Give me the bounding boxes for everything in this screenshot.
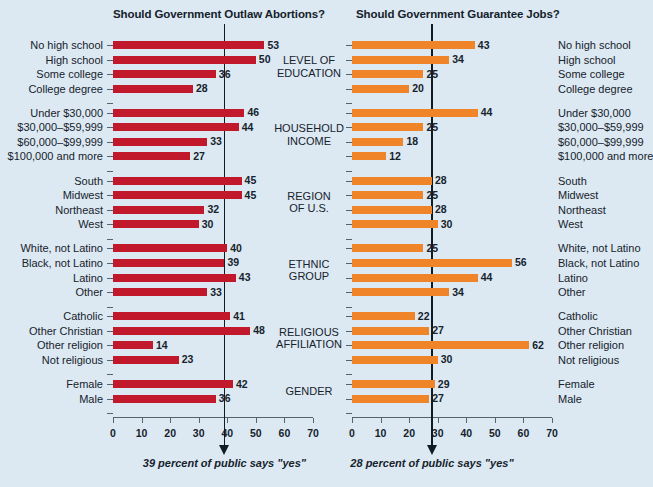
right-mean-arrow-stem <box>431 418 433 445</box>
bar-value-label: 43 <box>478 41 490 49</box>
bar <box>352 138 403 146</box>
x-axis-tick-label: 50 <box>489 427 501 439</box>
bar-value-label: 27 <box>193 152 205 160</box>
category-label: $100,000 and more <box>558 151 653 161</box>
bar <box>113 259 224 267</box>
category-label: College degree <box>558 84 633 94</box>
bar-value-label: 44 <box>242 123 254 131</box>
category-label: South <box>74 176 103 186</box>
group-name: LEVEL OFEDUCATION <box>270 54 348 79</box>
category-label: Not religious <box>558 355 619 365</box>
category-label: Some college <box>36 69 103 79</box>
group-name-line: AFFILIATION <box>270 338 348 351</box>
category-tick <box>346 239 352 240</box>
bar <box>113 288 207 296</box>
bar-value-label: 25 <box>426 191 438 199</box>
category-label: Other <box>558 287 586 297</box>
x-axis-tick-label: 20 <box>164 427 176 439</box>
bar-value-label: 14 <box>156 341 168 349</box>
bar-value-label: 44 <box>481 273 493 281</box>
bar <box>113 138 207 146</box>
bar <box>352 259 512 267</box>
category-tick <box>346 103 352 104</box>
x-axis-tick <box>256 418 257 423</box>
x-axis-tick-label: 0 <box>110 427 116 439</box>
x-axis-tick <box>438 418 439 423</box>
bar <box>352 41 475 49</box>
bar <box>352 312 415 320</box>
bar-value-label: 12 <box>389 152 401 160</box>
category-tick <box>107 307 113 308</box>
bar <box>352 341 529 349</box>
category-label: Other Christian <box>558 326 632 336</box>
bar <box>352 274 478 282</box>
group-name-line: GENDER <box>270 385 348 398</box>
category-label: High school <box>46 55 103 65</box>
left-mean-arrow-stem <box>224 418 226 445</box>
x-axis-tick <box>495 418 496 423</box>
x-axis-tick <box>199 418 200 423</box>
bar <box>113 85 193 93</box>
category-label: Northeast <box>55 205 103 215</box>
right-chart-title: Should Government Guarantee Jobs? <box>356 8 556 20</box>
category-label: Male <box>79 394 103 404</box>
x-axis-tick-label: 60 <box>279 427 291 439</box>
bar <box>352 109 478 117</box>
left-mean-arrow-arrowhead <box>219 445 229 455</box>
group-name-line: REGION <box>270 190 348 203</box>
bar-value-label: 44 <box>481 108 493 116</box>
bar <box>113 380 233 388</box>
category-label: Latino <box>558 273 588 283</box>
bar <box>352 220 438 228</box>
bar-value-label: 39 <box>227 258 239 266</box>
category-tick <box>107 374 113 375</box>
bar <box>113 244 227 252</box>
category-tick <box>346 307 352 308</box>
bar <box>113 70 216 78</box>
bar <box>113 356 179 364</box>
bar-value-label: 62 <box>532 341 544 349</box>
category-label: Midwest <box>558 190 598 200</box>
category-label: No high school <box>558 40 631 50</box>
x-axis-line <box>113 417 313 418</box>
category-label: Under $30,000 <box>558 108 631 118</box>
category-label: West <box>558 219 583 229</box>
bar-value-label: 28 <box>196 84 208 92</box>
bar <box>113 327 250 335</box>
category-tick <box>107 239 113 240</box>
bar <box>113 341 153 349</box>
x-axis-tick-label: 0 <box>349 427 355 439</box>
bar-value-label: 30 <box>441 355 453 363</box>
category-label: Northeast <box>558 205 606 215</box>
bar-value-label: 50 <box>259 55 271 63</box>
category-label: $60,000–$99,999 <box>558 137 644 147</box>
category-label: White, not Latino <box>558 243 641 253</box>
group-name-line: EDUCATION <box>270 67 348 80</box>
bar <box>352 395 429 403</box>
bar-value-label: 33 <box>210 288 222 296</box>
category-label: White, not Latino <box>20 243 103 253</box>
bar <box>113 206 204 214</box>
bar <box>352 56 449 64</box>
x-axis-tick <box>552 418 553 423</box>
x-axis-tick-label: 30 <box>193 427 205 439</box>
bar-value-label: 23 <box>182 355 194 363</box>
category-label: Female <box>66 379 103 389</box>
x-axis-tick <box>142 418 143 423</box>
bar-value-label: 28 <box>435 176 447 184</box>
x-axis-tick <box>352 418 353 423</box>
mean-marker-line <box>224 24 226 418</box>
category-label: West <box>78 219 103 229</box>
bar <box>113 220 199 228</box>
x-axis-tick-label: 50 <box>250 427 262 439</box>
category-label: Catholic <box>558 311 598 321</box>
bar-value-label: 27 <box>432 326 444 334</box>
category-label: $100,000 and more <box>8 151 103 161</box>
bar-value-label: 25 <box>426 244 438 252</box>
category-label: Under $30,000 <box>30 108 103 118</box>
bar-value-label: 42 <box>236 380 248 388</box>
bar <box>113 56 256 64</box>
x-axis-tick <box>284 418 285 423</box>
left-row-labels: No high schoolHigh schoolSome collegeCol… <box>0 36 108 418</box>
bar <box>352 206 432 214</box>
